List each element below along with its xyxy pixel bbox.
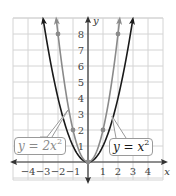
x-tick-label: −3 — [36, 166, 51, 177]
coordinate-plane: −4−3−2−1123412345678xy — [0, 0, 176, 196]
label-text: y = 2x — [18, 139, 57, 153]
y-axis-label: y — [92, 15, 99, 26]
y-tick-label: 5 — [78, 77, 84, 88]
y-tick-label: 6 — [78, 61, 84, 72]
y-tick-label: 7 — [78, 45, 84, 56]
axes — [10, 16, 168, 184]
data-point — [101, 128, 106, 133]
label-text: y = x — [113, 140, 144, 154]
x-tick-label: 3 — [130, 166, 136, 177]
data-point — [56, 32, 61, 37]
x-axis-right-arrow-icon — [161, 159, 168, 165]
callout-leader-x-squared — [112, 116, 126, 138]
x-tick-label: −1 — [66, 166, 81, 177]
label-exponent: 2 — [57, 137, 62, 146]
x-tick-label: 4 — [145, 166, 151, 177]
x-tick-label: 2 — [115, 166, 121, 177]
y-tick-label: 4 — [78, 93, 84, 104]
x-tick-label: −4 — [21, 166, 36, 177]
x-tick-label: 1 — [100, 166, 106, 177]
data-point — [71, 128, 76, 133]
y-tick-label: 8 — [78, 29, 84, 40]
x-axis-label: x — [164, 166, 170, 177]
label-y-equals-x-squared: y = x2 — [109, 138, 153, 156]
label-y-equals-2x-squared: y = 2x2 — [14, 137, 66, 155]
y-tick-label: 3 — [78, 109, 84, 120]
y-axis-up-arrow-icon — [85, 16, 91, 23]
label-exponent: 2 — [144, 138, 149, 147]
data-point — [116, 32, 121, 37]
data-point — [86, 160, 91, 165]
y-tick-label: 2 — [78, 125, 84, 136]
x-tick-label: −2 — [51, 166, 66, 177]
